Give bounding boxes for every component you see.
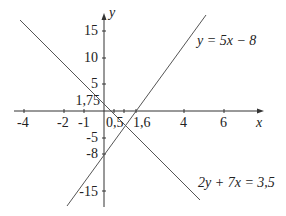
equation-label-line-2: 2y + 7x = 3,5 (198, 176, 275, 190)
y-tick-label: 1,75 (70, 94, 100, 108)
equation-label-line-1: y = 5x − 8 (197, 34, 256, 48)
x-tick-label: -2 (57, 116, 69, 130)
x-tick-label: 0,5 (106, 116, 124, 130)
line-2y-plus-7x-equals-3-5 (20, 20, 200, 200)
x-tick-label: 1,6 (133, 116, 151, 130)
x-tick-label: -4 (17, 116, 29, 130)
x-axis-arrow-icon (257, 109, 264, 114)
y-axis-label: y (109, 6, 115, 20)
y-tick-label: 10 (68, 51, 98, 65)
y-tick-label: 15 (68, 24, 98, 38)
y-axis-arrow-icon (102, 13, 107, 20)
coordinate-diagram: x y -4 -2 -1 0,5 1,6 4 6 15 10 5 1,75 -5… (0, 0, 286, 216)
x-tick-label: -1 (78, 116, 90, 130)
x-tick-label: 6 (220, 116, 227, 130)
y-tick-label: 5 (68, 77, 98, 91)
y-tick-label: -15 (68, 185, 98, 199)
y-tick-label: -8 (68, 147, 98, 161)
x-tick-label: 4 (180, 116, 187, 130)
x-axis-label: x (256, 116, 262, 130)
y-tick-label: -5 (68, 131, 98, 145)
